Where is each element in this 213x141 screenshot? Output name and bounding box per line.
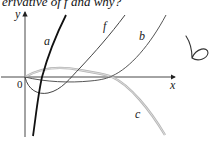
curve-c-label: c: [135, 107, 141, 121]
curve-c: [25, 68, 165, 135]
origin-label: 0: [17, 78, 23, 90]
handwritten-answer: [186, 36, 208, 60]
function-graph: y x 0 a f b c: [0, 0, 213, 141]
curve-a-label: a: [44, 34, 50, 48]
curve-b-label: b: [139, 29, 145, 43]
curve-f-label: f: [103, 19, 108, 33]
x-axis-label: x: [169, 78, 176, 92]
y-axis-label: y: [14, 7, 21, 21]
